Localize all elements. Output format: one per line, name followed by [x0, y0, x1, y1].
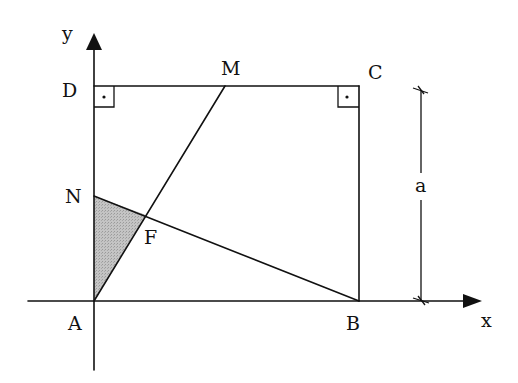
point-label-n: N	[65, 185, 82, 207]
point-label-m: M	[221, 57, 240, 79]
right-angle-mark-d	[94, 86, 114, 107]
point-label-a: A	[67, 312, 82, 334]
geometry-diagram: y x D M C N F A B a	[0, 0, 518, 383]
shaded-triangle-anf	[94, 196, 146, 301]
segment-am	[94, 86, 225, 301]
point-label-b: B	[346, 312, 360, 334]
y-axis-arrow-icon	[86, 33, 102, 50]
x-axis-arrow-icon	[463, 294, 482, 308]
point-label-c: C	[368, 61, 383, 83]
point-label-d: D	[62, 79, 77, 101]
right-angle-mark-c	[338, 86, 359, 107]
dimension-label-a: a	[415, 174, 426, 196]
segment-nb	[94, 196, 359, 301]
point-label-f: F	[144, 226, 157, 248]
x-axis-label: x	[481, 309, 492, 331]
y-axis-label: y	[61, 22, 73, 44]
